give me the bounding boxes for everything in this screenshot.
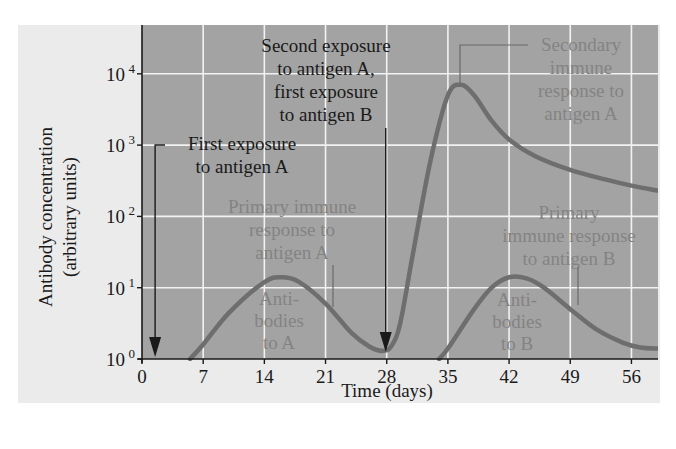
annotation-text-line: Anti- [259,288,299,309]
y-axis-label: Antibody concentration [35,127,56,307]
annotation-text-line: to antigen A, [277,58,375,79]
chart-svg: 0714212835424956100101102103104 First ex… [0,0,676,449]
annotation-text-line: immune [550,57,612,78]
y-tick-exponent: 3 [129,132,136,147]
y-axis-sublabel: (arbitrary units) [59,157,81,277]
x-tick-label: 49 [561,366,580,387]
y-tick-exponent: 1 [129,275,136,290]
annotation-text-line: to antigen B [523,248,616,269]
annotation-text-line: antigen A [544,103,618,124]
annotation-text-line: to A [263,332,295,353]
annotation-text-line: antigen A [255,242,329,263]
annotation-text-line: Anti- [497,289,537,310]
x-axis-label: Time (days) [341,380,433,402]
x-tick-label: 56 [622,366,641,387]
x-tick-label: 42 [500,366,519,387]
antibody-response-figure: 0714212835424956100101102103104 First ex… [0,0,676,449]
y-tick-label: 10 [106,135,125,156]
x-tick-label: 21 [316,366,335,387]
annotation-text-line: bodies [492,311,542,332]
annotation-text-line: response to [249,219,335,240]
x-tick-label: 14 [255,366,275,387]
annotation-text-line: Primary immune [228,196,356,217]
y-tick-exponent: 4 [129,61,136,76]
x-tick-label: 0 [137,366,147,387]
annotation-text-line: Secondary [541,34,622,55]
y-tick-label: 10 [106,64,125,85]
annotation-text-line: Primary [538,202,600,223]
annotation-text-line: Second exposure [261,35,390,56]
y-axis-label-group: Antibody concentration (arbitrary units) [35,127,81,307]
x-tick-label: 7 [198,366,208,387]
y-tick-label: 10 [106,206,125,227]
annotation-text-line: response to [538,80,624,101]
annotation-text-line: to antigen B [280,104,373,125]
y-tick-label: 10 [106,278,125,299]
y-tick-exponent: 2 [129,203,136,218]
annotation-text-line: to B [501,333,533,354]
annotation-text-line: bodies [254,310,304,331]
annotation-text-line: to antigen A [196,156,289,177]
y-tick-exponent: 0 [129,346,136,361]
annotation-text-line: immune response [502,225,636,246]
y-tick-label: 10 [106,349,125,370]
x-tick-label: 35 [438,366,457,387]
annotation-text-line: First exposure [188,133,296,154]
annotation-text-line: first exposure [274,81,378,102]
